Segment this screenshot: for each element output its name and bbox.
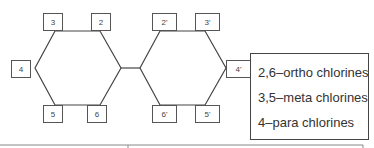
ring-a-hexagon bbox=[35, 31, 121, 105]
position-box-4-prime: 4' bbox=[226, 60, 251, 78]
chlorine-position-legend: 2,6–ortho chlorines 3,5–meta chlorines 4… bbox=[250, 53, 369, 140]
ring-b-hexagon bbox=[140, 31, 226, 105]
position-box-6-prime: 6' bbox=[152, 105, 177, 123]
position-box-2-prime: 2' bbox=[152, 13, 177, 31]
position-box-4: 4 bbox=[11, 60, 31, 78]
position-box-5-prime: 5' bbox=[195, 105, 220, 123]
position-box-5: 5 bbox=[43, 105, 63, 123]
position-box-3: 3 bbox=[43, 13, 63, 31]
legend-meta: 3,5–meta chlorines bbox=[258, 85, 368, 110]
position-box-2: 2 bbox=[91, 13, 111, 31]
legend-ortho: 2,6–ortho chlorines bbox=[258, 60, 368, 85]
legend-para: 4–para chlorines bbox=[258, 110, 368, 135]
position-box-3-prime: 3' bbox=[195, 13, 220, 31]
position-box-6: 6 bbox=[87, 105, 107, 123]
